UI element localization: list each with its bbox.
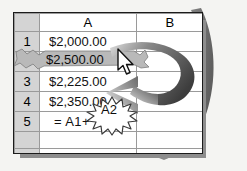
table-row: 4 $2,350.00 (15, 92, 204, 112)
column-header-a[interactable]: A (40, 14, 137, 32)
cell-a6[interactable] (40, 132, 137, 149)
row-header-1[interactable]: 1 (15, 32, 40, 52)
cell-b5[interactable] (137, 112, 204, 132)
row-header-7[interactable] (15, 149, 40, 155)
grid-table: A B 1 $2,000.00 2 3 $2,225.0 (14, 13, 203, 154)
column-header-row: A B (15, 14, 204, 32)
row-header-3[interactable]: 3 (15, 72, 40, 92)
row-header-5[interactable]: 5 (15, 112, 40, 132)
row-header-2[interactable]: 2 (15, 52, 40, 72)
table-row: 2 (15, 52, 204, 72)
spreadsheet-grid: A B 1 $2,000.00 2 3 $2,225.0 (13, 12, 203, 154)
table-row: 3 $2,225.00 (15, 72, 204, 92)
cell-b4[interactable] (137, 92, 204, 112)
cell-a7[interactable] (40, 149, 137, 155)
cell-b7[interactable] (137, 149, 204, 155)
cell-a1[interactable]: $2,000.00 (40, 32, 137, 52)
row-header-4[interactable]: 4 (15, 92, 40, 112)
cell-a1-value: $2,000.00 (40, 32, 136, 51)
cell-a2[interactable] (40, 52, 137, 72)
cell-a3-value: $2,225.00 (40, 72, 136, 91)
cell-b6[interactable] (137, 132, 204, 149)
table-row (15, 149, 204, 155)
row-header-6[interactable] (15, 132, 40, 149)
cell-a5-formula: = A1+ (40, 112, 136, 131)
table-row (15, 132, 204, 149)
illustration-canvas: A B 1 $2,000.00 2 3 $2,225.0 (0, 0, 247, 171)
table-row: 1 $2,000.00 (15, 32, 204, 52)
cell-b3[interactable] (137, 72, 204, 92)
cell-b2[interactable] (137, 52, 204, 72)
cell-b1[interactable] (137, 32, 204, 52)
cell-a4-value: $2,350.00 (40, 92, 136, 111)
cell-a2-value (40, 52, 136, 71)
cell-a4[interactable]: $2,350.00 (40, 92, 137, 112)
grid-corner-cell[interactable] (15, 14, 40, 32)
cell-a5[interactable]: = A1+ (40, 112, 137, 132)
table-row: 5 = A1+ (15, 112, 204, 132)
column-header-b[interactable]: B (137, 14, 204, 32)
cell-a3[interactable]: $2,225.00 (40, 72, 137, 92)
